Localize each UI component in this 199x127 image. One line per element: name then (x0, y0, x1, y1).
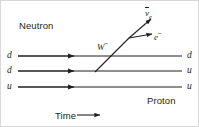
quark-label-outgoing-3: u (187, 82, 192, 92)
feynman-diagram: Neutron Proton Time W− νe e− d d u d u u (0, 0, 199, 127)
quark-label-outgoing-2: u (187, 66, 192, 76)
quark-label-outgoing-1: d (187, 51, 192, 61)
w-boson-symbol: W (97, 42, 105, 52)
quark-label-incoming-3: u (7, 82, 12, 92)
w-boson-label: W− (97, 41, 108, 52)
electron-label: e− (154, 31, 162, 42)
antineutrino-subscript: e (149, 13, 152, 20)
electron-charge: − (158, 30, 162, 37)
quark-label-incoming-2: d (7, 66, 12, 76)
time-axis-label: Time (55, 111, 76, 121)
antineutrino-symbol: ν (145, 9, 149, 18)
w-boson-charge: − (105, 40, 109, 47)
antineutrino-label: νe (145, 9, 152, 20)
proton-label: Proton (147, 96, 176, 106)
neutron-label: Neutron (19, 21, 54, 31)
quark-label-incoming-1: d (7, 51, 12, 61)
